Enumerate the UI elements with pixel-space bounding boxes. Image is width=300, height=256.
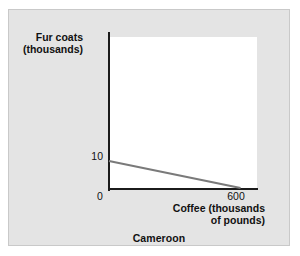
y-axis-label-line2: (thousands) bbox=[23, 43, 83, 55]
x-tick-label-600: 600 bbox=[221, 190, 251, 202]
plot-area bbox=[109, 37, 257, 189]
chart-panel: Fur coats(thousands) Coffee (thousandsof… bbox=[8, 9, 290, 246]
y-tick-label-10: 10 bbox=[85, 150, 103, 162]
y-axis-label: Fur coats(thousands) bbox=[23, 31, 83, 56]
y-axis-line bbox=[108, 32, 110, 191]
x-tick-label-0: 0 bbox=[93, 190, 107, 202]
x-axis-label-line1: Coffee (thousands bbox=[173, 202, 265, 214]
y-axis-label-line1: Fur coats bbox=[36, 31, 83, 43]
chart-figure: Fur coats(thousands) Coffee (thousandsof… bbox=[0, 0, 300, 256]
x-axis-label: Coffee (thousandsof pounds) bbox=[153, 202, 265, 227]
chart-caption: Cameroon bbox=[9, 232, 300, 244]
x-axis-label-line2: of pounds) bbox=[211, 214, 265, 226]
